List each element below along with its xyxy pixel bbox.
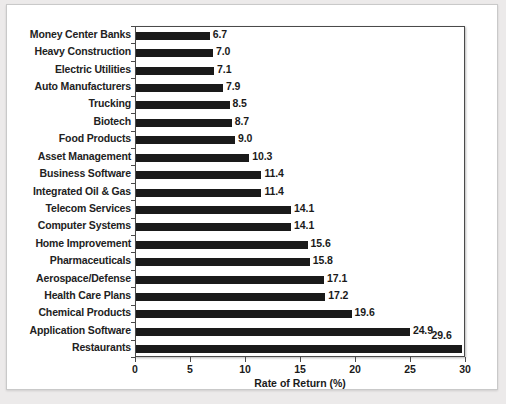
x-axis-tick-label: 25 [404,363,416,375]
x-axis-tick-label: 20 [349,363,361,375]
bar-value-label: 8.5 [233,97,247,109]
bar-value-label: 14.1 [294,202,314,214]
y-axis-label: Business Software [7,167,131,179]
bar-value-label: 7.1 [217,63,231,75]
y-axis-label: Electric Utilities [7,63,131,75]
figure-root: Money Center BanksHeavy ConstructionElec… [0,0,506,404]
bar-value-label: 8.7 [235,115,249,127]
bar [136,67,214,75]
x-axis-tick-label: 0 [132,363,138,375]
x-axis-tick [245,357,246,362]
x-axis-tick [135,357,136,362]
y-axis-label: Integrated Oil & Gas [7,185,131,197]
y-axis-label: Heavy Construction [7,45,131,57]
bar-value-label: 11.4 [264,185,283,197]
y-axis-label: Aerospace/Defense [7,272,131,284]
bar-value-label: 7.9 [226,80,240,92]
bar-value-label: 29.6 [432,329,452,341]
y-axis-label: Chemical Products [7,306,131,318]
x-axis-title: Rate of Return (%) [135,377,465,389]
y-axis-category-labels: Money Center BanksHeavy ConstructionElec… [7,26,131,357]
y-axis-label: Application Software [7,324,131,336]
bar-value-label: 19.6 [355,306,375,318]
bar [136,206,291,214]
x-axis-tick-label: 15 [294,363,306,375]
bar [136,310,352,318]
bar [136,119,232,127]
x-axis-tick-label: 10 [239,363,251,375]
bar [136,32,210,40]
x-axis-tick [355,357,356,362]
bar [136,171,261,179]
bar-value-label: 17.2 [328,289,348,301]
x-axis-tick-label: 5 [187,363,193,375]
bar [136,49,213,57]
bar-value-label: 14.1 [294,219,314,231]
x-axis-tick [190,357,191,362]
bar-chart: Money Center BanksHeavy ConstructionElec… [7,5,499,391]
plot-area: 6.77.07.17.98.58.79.010.311.411.414.114.… [135,26,465,357]
bar [136,328,410,336]
bar [136,345,462,353]
bar-value-label: 17.1 [327,272,347,284]
y-axis-label: Pharmaceuticals [7,254,131,266]
y-axis-label: Asset Management [7,150,131,162]
bar [136,293,325,301]
y-axis-label: Auto Manufacturers [7,80,131,92]
y-axis-label: Biotech [7,115,131,127]
bar [136,276,324,284]
bar [136,241,308,249]
bars-container: 6.77.07.17.98.58.79.010.311.411.414.114.… [136,27,464,356]
bar [136,223,291,231]
y-axis-label: Trucking [7,97,131,109]
x-axis-tick-label: 30 [459,363,471,375]
x-axis-tick [465,357,466,362]
bar [136,258,310,266]
bar-value-label: 7.0 [216,45,230,57]
bar-value-label: 15.8 [313,254,333,266]
y-axis-label: Home Improvement [7,237,131,249]
bar [136,101,230,109]
bar-value-label: 6.7 [213,28,227,40]
y-axis-label: Food Products [7,132,131,144]
bar [136,189,261,197]
bar [136,136,235,144]
y-axis-label: Telecom Services [7,202,131,214]
y-axis-label: Restaurants [7,341,131,353]
y-axis-label: Computer Systems [7,219,131,231]
bar-value-label: 24.9 [413,324,433,336]
bar [136,154,249,162]
bar [136,84,223,92]
bar-value-label: 15.6 [311,237,331,249]
bar-value-label: 10.3 [252,150,272,162]
y-axis-label: Health Care Plans [7,289,131,301]
bar-value-label: 11.4 [264,167,283,179]
chart-card: Money Center BanksHeavy ConstructionElec… [6,4,498,390]
y-axis-label: Money Center Banks [7,28,131,40]
x-axis-tick [300,357,301,362]
bar-value-label: 9.0 [238,132,252,144]
x-axis-tick [410,357,411,362]
